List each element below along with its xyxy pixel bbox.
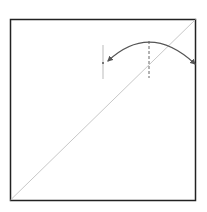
start-point [102,62,104,64]
diagram-canvas [0,0,207,212]
curved-arrow-arc [108,42,195,64]
